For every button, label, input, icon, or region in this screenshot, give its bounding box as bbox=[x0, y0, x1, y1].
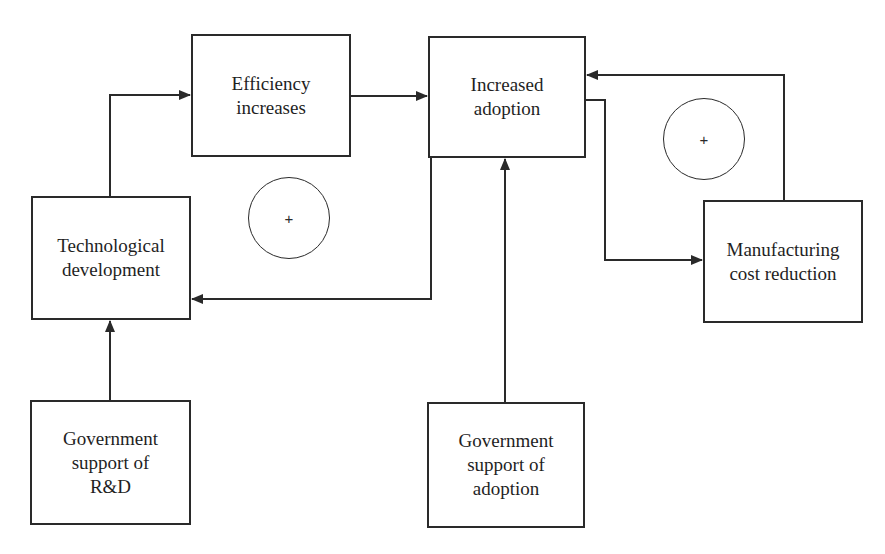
plus-sign-icon: + bbox=[700, 131, 709, 148]
node-efficiency: Efficiency increases bbox=[191, 34, 351, 157]
arrow-tech-dev-to-efficiency bbox=[110, 95, 190, 196]
node-gov-adoption: Government support of adoption bbox=[427, 402, 585, 528]
causal-loop-diagram: ++ Technological developmentEfficiency i… bbox=[0, 0, 885, 554]
plus-sign-icon: + bbox=[285, 210, 294, 227]
node-label: Increased adoption bbox=[471, 73, 544, 121]
node-adoption: Increased adoption bbox=[428, 36, 586, 158]
node-label: Government support of adoption bbox=[459, 429, 554, 501]
node-label: Government support of R&D bbox=[63, 427, 158, 499]
node-label: Efficiency increases bbox=[232, 72, 311, 120]
node-tech-dev: Technological development bbox=[31, 196, 191, 320]
node-label: Manufacturing cost reduction bbox=[727, 238, 840, 286]
node-mfg-cost: Manufacturing cost reduction bbox=[703, 200, 863, 323]
reinforcing-loop-marker: + bbox=[663, 98, 745, 180]
node-gov-rd: Government support of R&D bbox=[30, 400, 191, 525]
node-label: Technological development bbox=[57, 234, 164, 282]
reinforcing-loop-marker: + bbox=[248, 177, 330, 259]
